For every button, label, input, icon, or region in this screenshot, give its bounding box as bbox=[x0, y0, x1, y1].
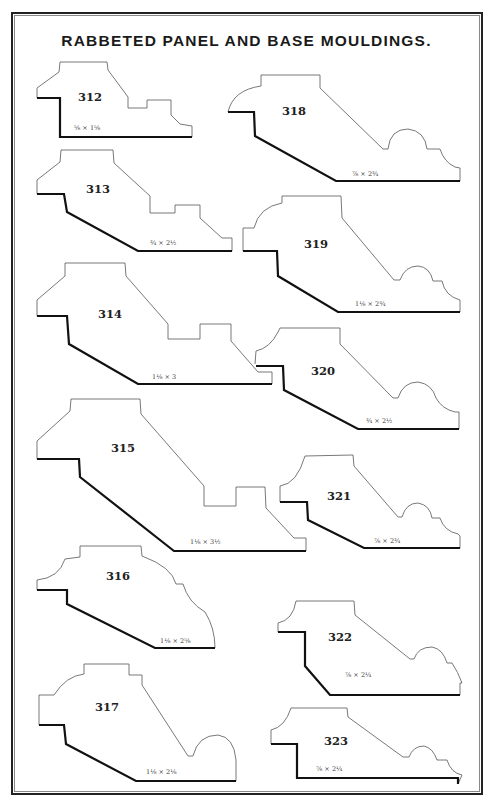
moulding-size: ⅞ × 2¾ bbox=[374, 537, 401, 545]
moulding-319: 319 1⅛ × 2¾ bbox=[243, 196, 460, 312]
moulding-size: ¾ × 2½ bbox=[366, 417, 392, 425]
moulding-312: 312 ⅝ × 1⅝ bbox=[37, 62, 192, 137]
moulding-315: 315 1⅛ × 3½ bbox=[37, 399, 306, 551]
moulding-number: 314 bbox=[98, 307, 122, 321]
moulding-size: ¾ × 2½ bbox=[150, 239, 176, 247]
moulding-number: 318 bbox=[282, 104, 306, 118]
moulding-number: 315 bbox=[111, 441, 135, 455]
moulding-number: 313 bbox=[86, 182, 110, 196]
moulding-number: 322 bbox=[328, 630, 352, 644]
moulding-size: 1⅛ × 2⅝ bbox=[160, 637, 191, 645]
moulding-size: 1⅛ × 3 bbox=[152, 373, 176, 381]
moulding-313: 313 ¾ × 2½ bbox=[37, 150, 232, 251]
moulding-number: 323 bbox=[324, 734, 348, 748]
moulding-320: 320 ¾ × 2½ bbox=[255, 328, 459, 429]
moulding-321: 321 ⅞ × 2¾ bbox=[280, 455, 460, 548]
moulding-plate: 312 ⅝ × 1⅝ 313 ¾ × 2½ 314 1⅛ × 3 315 1⅛ … bbox=[0, 0, 493, 800]
moulding-number: 320 bbox=[311, 364, 335, 378]
moulding-number: 319 bbox=[304, 237, 328, 251]
moulding-size: 1⅛ × 2⅛ bbox=[146, 768, 177, 776]
moulding-size: ⅞ × 2¼ bbox=[316, 765, 343, 773]
moulding-318: 318 ⅞ × 2¾ bbox=[228, 75, 460, 181]
moulding-number: 317 bbox=[95, 700, 119, 714]
moulding-number: 312 bbox=[78, 90, 102, 104]
moulding-size: ⅝ × 1⅝ bbox=[74, 124, 101, 132]
moulding-size: 1⅛ × 2¾ bbox=[355, 300, 386, 308]
moulding-size: ⅞ × 2¾ bbox=[352, 170, 379, 178]
moulding-323: 323 ⅞ × 2¼ bbox=[271, 708, 462, 784]
moulding-322: 322 ⅞ × 2¼ bbox=[278, 601, 462, 695]
moulding-number: 316 bbox=[106, 569, 130, 583]
moulding-size: ⅞ × 2¼ bbox=[345, 671, 372, 679]
moulding-number: 321 bbox=[327, 489, 351, 503]
moulding-314: 314 1⅛ × 3 bbox=[37, 263, 272, 384]
moulding-316: 316 1⅛ × 2⅝ bbox=[37, 546, 215, 648]
moulding-317: 317 1⅛ × 2⅛ bbox=[39, 664, 236, 781]
moulding-size: 1⅛ × 3½ bbox=[190, 538, 220, 546]
